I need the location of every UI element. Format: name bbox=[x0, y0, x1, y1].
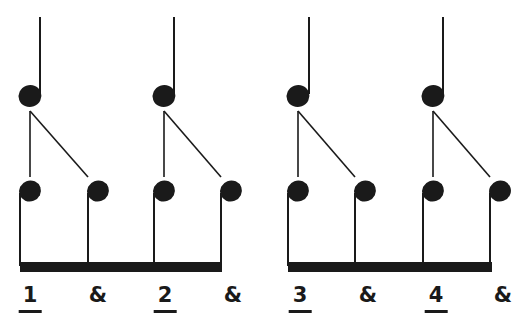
and-count-label: & bbox=[494, 285, 512, 306]
and-count-label: & bbox=[89, 285, 107, 306]
subdivision-line bbox=[30, 111, 88, 177]
beat-number-label: 3 bbox=[289, 285, 312, 313]
subdivision-line bbox=[433, 111, 490, 177]
and-count-label: & bbox=[359, 285, 377, 306]
beat-number-label: 1 bbox=[19, 285, 42, 313]
beat-number-label: 2 bbox=[154, 285, 177, 313]
notes-layer bbox=[15, 17, 513, 272]
beam bbox=[288, 262, 492, 272]
beam bbox=[20, 262, 222, 272]
subdivision-line bbox=[164, 111, 221, 177]
subdivision-line bbox=[298, 111, 355, 177]
rhythm-diagram bbox=[0, 0, 525, 328]
and-count-label: & bbox=[224, 285, 242, 306]
beat-number-label: 4 bbox=[425, 285, 448, 313]
